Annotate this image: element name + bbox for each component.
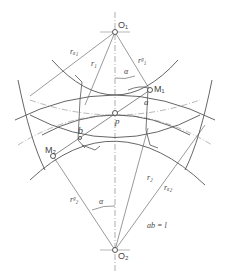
label-ra2: rₐ₂	[164, 184, 172, 192]
alpha-bottom-arc	[92, 206, 115, 210]
gear2-base-circle	[30, 141, 205, 185]
label-b: b	[78, 126, 83, 136]
label-alpha-bottom: α	[99, 198, 103, 206]
gear-mesh-diagram	[0, 0, 229, 280]
alpha-top-arc	[115, 76, 135, 79]
label-ra1: rₐ₁	[70, 48, 78, 56]
label-p: p	[115, 117, 120, 126]
label-rg2: rᵍ₂	[70, 196, 78, 204]
label-m2: M₂	[45, 146, 56, 155]
label-m1: M₁	[154, 85, 165, 94]
label-a: a	[144, 98, 149, 107]
label-rg1: rᵍ₁	[138, 57, 146, 65]
ra2-line	[115, 125, 205, 250]
point-p	[113, 111, 118, 116]
label-o2: O₂	[118, 252, 129, 261]
rg2-line	[53, 156, 115, 250]
point-o2	[113, 248, 118, 253]
ra1-line	[30, 32, 115, 96]
gear1-outer-arc-right	[185, 80, 212, 170]
label-r2: r₂	[147, 174, 153, 182]
equation-ab-l: ab = l	[147, 222, 167, 230]
label-alpha-top: α	[124, 68, 128, 76]
point-b	[79, 137, 82, 140]
gear1-outer-arc	[18, 80, 45, 170]
label-r1: r₁	[91, 60, 97, 68]
label-o1: O₁	[118, 21, 128, 30]
point-o1	[113, 30, 118, 35]
point-m1	[148, 88, 153, 93]
